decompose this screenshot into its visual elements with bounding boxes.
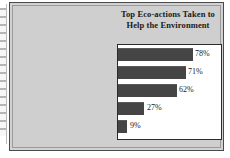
bar-value-label: 78% <box>195 49 210 59</box>
bar <box>118 102 144 115</box>
bar <box>118 84 177 97</box>
bar <box>118 120 127 133</box>
page-column-rule <box>6 4 7 144</box>
bar-value-label: 62% <box>179 85 194 95</box>
bar-value-label: 27% <box>147 103 162 113</box>
chart-figure: Top Eco-actions Taken to Help the Enviro… <box>9 2 224 151</box>
bar <box>118 66 186 79</box>
bar-value-label: 71% <box>188 67 203 77</box>
bar <box>118 48 193 61</box>
bar-rows: Recycle 78% Reuse Materials 71% Reduce W… <box>10 3 225 152</box>
bar-value-label: 9% <box>130 121 141 131</box>
